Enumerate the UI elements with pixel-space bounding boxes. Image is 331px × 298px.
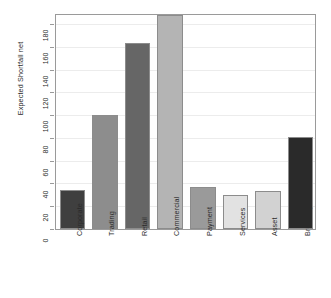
y-axis-tick-mark — [50, 206, 54, 207]
y-axis-tick-label: 40 — [42, 182, 49, 208]
x-axis-tick-label: Payment — [205, 207, 214, 236]
y-axis-tick-mark — [50, 161, 54, 162]
gridline — [56, 70, 315, 71]
y-axis-tick-label: 120 — [42, 91, 49, 117]
y-axis-tick-mark — [50, 138, 54, 139]
x-axis-tick-label: Brokerage — [303, 202, 312, 236]
y-axis-tick-label: 80 — [42, 136, 49, 162]
y-axis-tick-mark — [50, 229, 54, 230]
bar — [125, 43, 150, 229]
x-axis-tick-label: Commercial — [172, 197, 181, 236]
y-axis-tick-label: 100 — [42, 114, 49, 140]
gridline — [56, 24, 315, 25]
x-axis-tick-label: Corporate — [75, 203, 84, 236]
bar-chart-figure: Expected Shortfall net 02040608010012014… — [0, 0, 331, 298]
y-axis-tick-mark — [50, 47, 54, 48]
y-axis-tick-mark — [50, 70, 54, 71]
y-axis-tick-label: 180 — [42, 23, 49, 49]
y-axis-tick-label: 20 — [42, 205, 49, 231]
x-axis-tick-label: Asset — [270, 218, 279, 236]
y-axis-tick-mark — [50, 115, 54, 116]
y-axis-title: Expected Shortfall net — [16, 19, 25, 139]
y-axis-tick-mark — [50, 24, 54, 25]
x-axis-tick-label: Retail — [140, 217, 149, 236]
x-axis-tick-label: Trading — [107, 211, 116, 236]
y-axis-tick-mark — [50, 183, 54, 184]
y-axis-tick-label: 60 — [42, 159, 49, 185]
y-axis-tick-label: 0 — [42, 228, 49, 254]
y-axis-tick-mark — [50, 92, 54, 93]
y-axis-tick-label: 140 — [42, 68, 49, 94]
gridline — [56, 92, 315, 93]
y-axis-tick-label: 160 — [42, 45, 49, 71]
gridline — [56, 47, 315, 48]
plot-area — [55, 14, 316, 230]
x-axis-tick-label: Services — [238, 208, 247, 236]
